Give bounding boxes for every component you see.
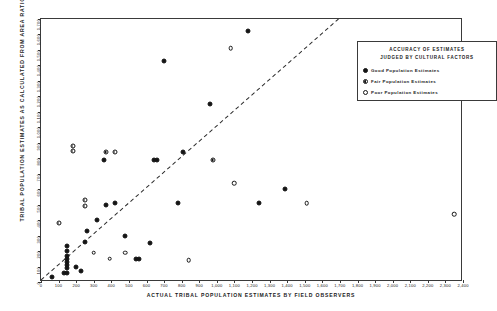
y-tick-label: 1,500 — [36, 50, 41, 61]
data-point-poor — [123, 250, 128, 255]
x-tick-label: 400 — [108, 283, 115, 288]
plot-area: 01002003004005006007008009001,0001,1001,… — [40, 18, 462, 281]
data-point-good — [176, 201, 181, 206]
x-tick-label: 600 — [143, 283, 150, 288]
x-tick-label: 2,300 — [440, 283, 451, 288]
data-point-good — [82, 239, 87, 244]
data-point-good — [65, 253, 70, 258]
x-tick-label: 300 — [90, 283, 97, 288]
y-tick-label: 200 — [36, 251, 41, 258]
data-point-good — [65, 270, 70, 275]
x-axis-title: ACTUAL TRIBAL POPULATION ESTIMATES BY FI… — [40, 292, 462, 298]
data-point-good — [79, 269, 84, 274]
x-tick-label: 1,800 — [352, 283, 363, 288]
x-tick-label: 1,000 — [211, 283, 222, 288]
x-tick-label: 200 — [72, 283, 79, 288]
data-point-good — [74, 264, 79, 269]
legend-box: ACCURACY OF ESTIMATES JUDGED BY CULTURAL… — [357, 41, 497, 101]
data-point-good — [137, 256, 142, 261]
legend-entry-good: Good Population Estimates — [363, 68, 491, 73]
data-point-good — [155, 157, 160, 162]
data-point-fair — [70, 143, 75, 148]
data-point-good — [112, 201, 117, 206]
x-tick-label: 500 — [125, 283, 132, 288]
x-tick-label: 1,300 — [264, 283, 275, 288]
x-tick-label: 1,500 — [299, 283, 310, 288]
data-point-good — [65, 244, 70, 249]
x-tick-label: 2,000 — [387, 283, 398, 288]
data-point-good — [104, 202, 109, 207]
data-point-good — [257, 201, 262, 206]
legend-entry-label: Fair Population Estimates — [371, 79, 436, 84]
data-point-good — [123, 233, 128, 238]
fair-marker-icon — [363, 79, 368, 84]
x-tick-label: 100 — [55, 283, 62, 288]
legend-entries: Good Population EstimatesFair Population… — [363, 68, 491, 95]
y-tick-label: 300 — [36, 236, 41, 243]
x-tick-label: 2,400 — [457, 283, 468, 288]
data-point-poor — [107, 256, 112, 261]
y-tick-label: 100 — [36, 267, 41, 274]
y-tick-label: 1,400 — [36, 65, 41, 76]
x-tick-label: 2,100 — [405, 283, 416, 288]
data-point-fair — [82, 198, 87, 203]
y-tick-label: 900 — [36, 143, 41, 150]
x-tick-label: 0 — [40, 283, 42, 288]
data-point-good — [207, 102, 212, 107]
legend-entry-fair: Fair Population Estimates — [363, 79, 491, 84]
data-point-good — [246, 29, 251, 34]
y-tick-label: 800 — [36, 158, 41, 165]
data-point-good — [181, 150, 186, 155]
data-point-good — [102, 157, 107, 162]
legend-title-line-2: JUDGED BY CULTURAL FACTORS — [363, 54, 491, 62]
poor-marker-icon — [363, 90, 368, 95]
y-tick-label: 600 — [36, 189, 41, 196]
x-tick-label: 1,100 — [229, 283, 240, 288]
x-tick-label: 1,700 — [334, 283, 345, 288]
data-point-good — [84, 228, 89, 233]
y-axis-title: TRIBAL POPULATION ESTIMATES AS CALCULATE… — [19, 0, 25, 241]
y-tick-label: 400 — [36, 220, 41, 227]
data-point-good — [148, 241, 153, 246]
data-point-good — [283, 187, 288, 192]
y-tick-label: 700 — [36, 174, 41, 181]
y-tick-label: 1,700 — [36, 19, 41, 30]
y-tick-label: 1,000 — [36, 127, 41, 138]
data-point-fair — [70, 148, 75, 153]
data-point-good — [49, 275, 54, 280]
y-tick-label: 1,600 — [36, 34, 41, 45]
data-point-fair — [82, 204, 87, 209]
data-point-good — [95, 218, 100, 223]
y-tick-label: 500 — [36, 205, 41, 212]
x-tick-label: 1,900 — [369, 283, 380, 288]
x-tick-label: 1,200 — [246, 283, 257, 288]
data-point-poor — [91, 250, 96, 255]
legend-entry-label: Poor Population Estimates — [371, 90, 438, 95]
x-tick-label: 2,200 — [422, 283, 433, 288]
x-tick-label: 1,400 — [282, 283, 293, 288]
legend-title-line-1: ACCURACY OF ESTIMATES — [363, 46, 491, 54]
x-tick-label: 700 — [160, 283, 167, 288]
data-point-good — [65, 249, 70, 254]
data-point-poor — [229, 46, 234, 51]
x-tick-label: 900 — [196, 283, 203, 288]
data-point-poor — [232, 181, 237, 186]
data-point-fair — [56, 221, 61, 226]
x-tick-label: 1,600 — [317, 283, 328, 288]
data-point-fair — [104, 150, 109, 155]
x-tick-label: 800 — [178, 283, 185, 288]
data-point-fair — [211, 157, 216, 162]
data-point-fair — [112, 150, 117, 155]
good-marker-icon — [363, 68, 368, 73]
y-tick-label: 1,300 — [36, 81, 41, 92]
data-point-poor — [452, 212, 457, 217]
legend-entry-poor: Poor Population Estimates — [363, 90, 491, 95]
data-point-poor — [304, 201, 309, 206]
legend-entry-label: Good Population Estimates — [371, 68, 440, 73]
data-point-poor — [186, 258, 191, 263]
y-tick-label: 1,100 — [36, 112, 41, 123]
data-point-good — [162, 58, 167, 63]
y-tick-label: 1,200 — [36, 96, 41, 107]
